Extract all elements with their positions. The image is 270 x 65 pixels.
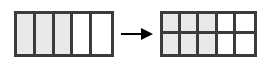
- left-cell-3-shaded: [55, 14, 74, 54]
- right-cell-8-shaded: [199, 34, 217, 54]
- right-cell-2-shaded: [181, 14, 199, 34]
- right-cell-6-shaded: [163, 34, 181, 54]
- right-cell-4-unshaded: [218, 14, 236, 34]
- left-cell-1-shaded: [17, 14, 36, 54]
- right-cell-9-unshaded: [218, 34, 236, 54]
- left-cell-2-shaded: [36, 14, 55, 54]
- left-cell-4-unshaded: [73, 14, 92, 54]
- arrow-right-icon: [121, 26, 153, 42]
- right-cell-3-shaded: [199, 14, 217, 34]
- right-cell-5-unshaded: [236, 14, 254, 34]
- left-fraction-bar: [14, 11, 114, 57]
- right-cell-1-shaded: [163, 14, 181, 34]
- right-fraction-grid: [160, 11, 257, 57]
- fraction-equivalence-diagram: [0, 0, 270, 65]
- left-cell-5-unshaded: [92, 14, 111, 54]
- right-cell-7-shaded: [181, 34, 199, 54]
- right-cell-10-unshaded: [236, 34, 254, 54]
